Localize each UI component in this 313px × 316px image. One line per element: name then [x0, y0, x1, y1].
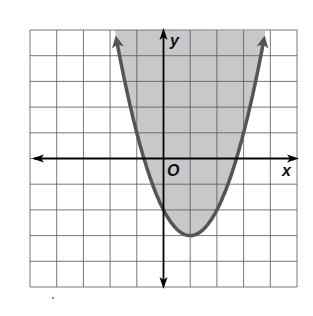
y-axis-label: y — [169, 32, 180, 49]
inequality-graph: y x O — [0, 0, 313, 316]
x-axis-label: x — [281, 162, 292, 179]
origin-label: O — [167, 162, 180, 179]
stray-dot — [52, 297, 54, 299]
